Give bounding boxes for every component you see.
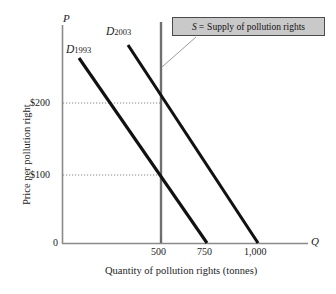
supply-callout-text: Supply of pollution rights — [204, 22, 305, 32]
supply-symbol: S — [192, 22, 199, 32]
y-axis-title: Price per pollution right — [22, 104, 33, 205]
y-axis-letter: P — [63, 13, 70, 24]
xtick-label-1000: 1,000 — [244, 247, 267, 257]
callout-leader-line — [162, 37, 196, 67]
demand-2003-year: 2003 — [114, 27, 131, 37]
supply-callout-box: S = Supply of pollution rights — [172, 17, 325, 36]
origin-label: 0 — [53, 238, 58, 248]
xtick-label-750: 750 — [197, 247, 212, 257]
x-axis-letter: Q — [311, 236, 319, 247]
xtick-label-500: 500 — [151, 247, 166, 257]
ytick-label-100: $100 — [30, 170, 50, 180]
x-axis-title: Quantity of pollution rights (tonnes) — [105, 266, 257, 277]
ytick-label-200: $200 — [30, 98, 50, 108]
demand-2003-label: D2003 — [106, 26, 131, 38]
demand-1993-label: D1993 — [66, 44, 91, 56]
demand-curve-1993 — [79, 58, 207, 243]
chart-canvas — [0, 0, 336, 294]
demand-curve-2003 — [128, 45, 258, 243]
pollution-rights-chart: P Q 0 $200 $100 500 750 1,000 Price per … — [0, 0, 336, 294]
demand-1993-year: 1993 — [74, 45, 91, 55]
